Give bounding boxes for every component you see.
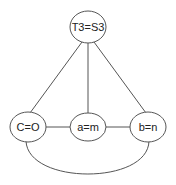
diagram-canvas: T3=S3 C=O a=m b=n (0, 0, 176, 185)
edge-left-right-arc (26, 141, 149, 174)
node-middle-label: a=m (77, 121, 99, 133)
node-right-label: b=n (139, 121, 158, 133)
edge-top-left (30, 42, 82, 113)
node-top-label: T3=S3 (72, 21, 105, 33)
node-left-label: C=O (17, 121, 40, 133)
graph-diagram: T3=S3 C=O a=m b=n (0, 0, 176, 185)
edge-top-right (94, 42, 146, 113)
